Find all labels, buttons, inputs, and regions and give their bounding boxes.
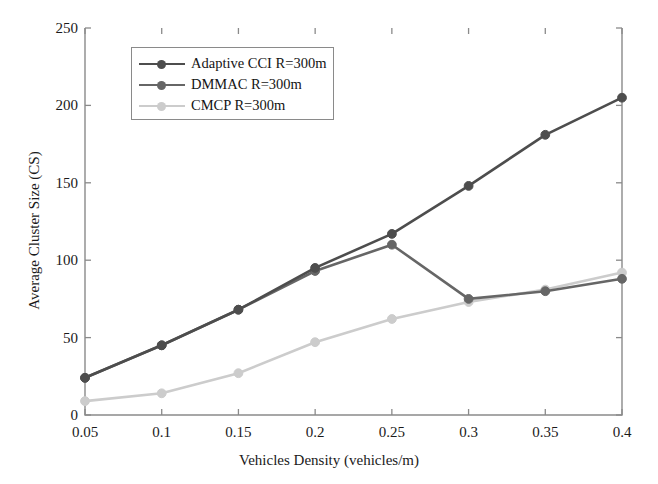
legend-line-swatch-icon xyxy=(139,58,185,70)
chart-figure: 0.050.10.150.20.250.30.350.4050100150200… xyxy=(0,0,658,484)
legend-label: DMMAC R=300m xyxy=(191,77,302,92)
series-1 xyxy=(81,240,627,382)
y-tick-label: 0 xyxy=(30,407,78,424)
x-tick-label: 0.25 xyxy=(379,424,405,441)
legend-item: Adaptive CCI R=300m xyxy=(132,53,333,74)
x-axis-label: Vehicles Density (vehicles/m) xyxy=(0,452,658,469)
legend-line-swatch-icon xyxy=(139,79,185,91)
legend-line-swatch-icon xyxy=(139,100,185,112)
legend-item: CMCP R=300m xyxy=(132,95,333,116)
legend-marker-icon xyxy=(157,102,166,111)
legend-box: Adaptive CCI R=300m DMMAC R=300m CMCP R=… xyxy=(131,47,334,120)
x-tick-label: 0.4 xyxy=(613,424,632,441)
y-tick-label: 250 xyxy=(30,20,78,37)
x-tick-label: 0.35 xyxy=(532,424,558,441)
x-tick-label: 0.15 xyxy=(225,424,251,441)
legend-label: CMCP R=300m xyxy=(191,98,285,113)
x-tick-label: 0.3 xyxy=(459,424,478,441)
x-tick-label: 0.2 xyxy=(306,424,325,441)
legend-marker-icon xyxy=(157,60,166,69)
series-0 xyxy=(81,93,627,382)
legend-item: DMMAC R=300m xyxy=(132,74,333,95)
legend-marker-icon xyxy=(157,81,166,90)
y-axis-label: Average Cluster Size (CS) xyxy=(26,101,43,361)
data-series-group xyxy=(81,93,627,405)
legend-label: Adaptive CCI R=300m xyxy=(191,56,326,71)
x-tick-label: 0.1 xyxy=(152,424,171,441)
x-tick-label: 0.05 xyxy=(72,424,98,441)
